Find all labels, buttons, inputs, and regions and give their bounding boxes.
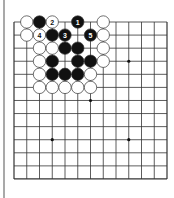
move-number-label: 3 bbox=[63, 32, 67, 39]
white-stone: 2 bbox=[46, 16, 58, 28]
white-stone bbox=[46, 81, 58, 93]
white-stone bbox=[97, 55, 109, 67]
go-board[interactable]: 21435 bbox=[0, 0, 174, 198]
black-stone bbox=[33, 16, 45, 28]
black-stone bbox=[72, 55, 84, 67]
white-stone bbox=[84, 68, 96, 80]
black-stone bbox=[46, 68, 58, 80]
star-point bbox=[127, 60, 130, 63]
black-stone bbox=[72, 68, 84, 80]
white-stone bbox=[33, 81, 45, 93]
white-stone: 4 bbox=[33, 29, 45, 41]
black-stone bbox=[84, 55, 96, 67]
white-stone bbox=[21, 29, 33, 41]
move-number-label: 4 bbox=[38, 32, 42, 39]
black-stone bbox=[59, 68, 71, 80]
black-stone bbox=[46, 55, 58, 67]
white-stone bbox=[84, 81, 96, 93]
white-stone bbox=[97, 16, 109, 28]
black-stone: 1 bbox=[72, 16, 84, 28]
black-stone bbox=[72, 42, 84, 54]
white-stone bbox=[97, 42, 109, 54]
move-number-label: 2 bbox=[50, 19, 54, 26]
white-stone bbox=[33, 55, 45, 67]
white-stone bbox=[46, 42, 58, 54]
white-stone bbox=[97, 29, 109, 41]
star-point bbox=[127, 138, 130, 141]
black-stone bbox=[46, 29, 58, 41]
black-stone: 5 bbox=[84, 29, 96, 41]
move-number-label: 1 bbox=[76, 19, 80, 26]
move-number-label: 5 bbox=[89, 32, 93, 39]
white-stone bbox=[33, 42, 45, 54]
white-stone bbox=[21, 16, 33, 28]
black-stone bbox=[59, 42, 71, 54]
white-stone bbox=[72, 81, 84, 93]
star-point bbox=[89, 99, 92, 102]
black-stone: 3 bbox=[59, 29, 71, 41]
star-point bbox=[51, 138, 54, 141]
white-stone bbox=[33, 68, 45, 80]
white-stone bbox=[59, 81, 71, 93]
